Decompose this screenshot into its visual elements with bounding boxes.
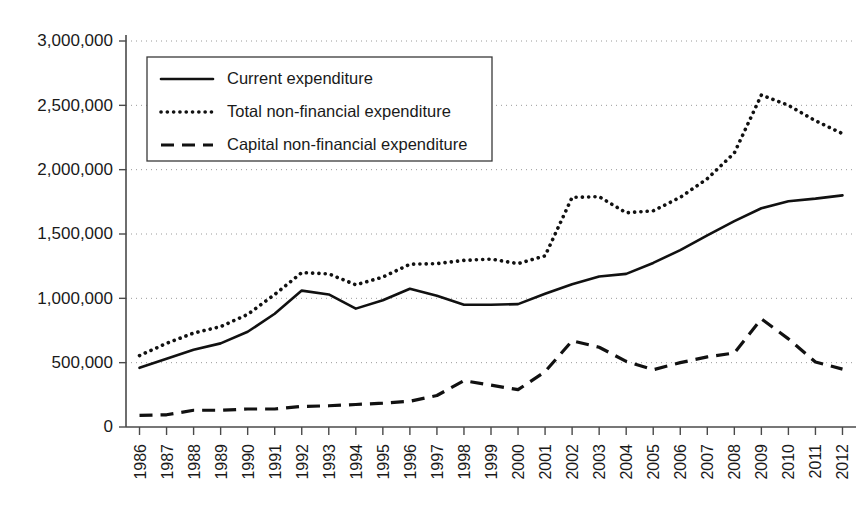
x-tick-label: 2011	[807, 444, 824, 479]
y-tick-label: 1,500,000	[37, 224, 113, 243]
x-tick-label: 2003	[591, 444, 608, 480]
x-tick-label: 1995	[375, 444, 392, 480]
chart-container: 0500,0001,000,0001,500,0002,000,0002,500…	[0, 0, 868, 506]
x-tick-label: 1990	[240, 444, 257, 480]
chart-legend: Current expenditureTotal non-financial e…	[147, 57, 492, 161]
y-axis-ticks	[119, 41, 126, 427]
x-tick-label: 2002	[564, 444, 581, 480]
x-tick-label: 2006	[672, 444, 689, 480]
x-tick-label: 1989	[213, 444, 230, 480]
x-tick-label: 1991	[267, 444, 284, 480]
x-tick-label: 2008	[726, 444, 743, 480]
x-tick-label: 1997	[429, 444, 446, 480]
x-tick-label: 1994	[348, 444, 365, 480]
x-tick-label: 2010	[780, 444, 797, 480]
y-axis-labels: 0500,0001,000,0001,500,0002,000,0002,500…	[37, 31, 113, 436]
x-tick-label: 1998	[456, 444, 473, 480]
y-tick-label: 2,000,000	[37, 160, 113, 179]
y-tick-label: 0	[104, 417, 113, 436]
legend-label: Total non-financial expenditure	[227, 102, 451, 120]
y-tick-label: 1,000,000	[37, 289, 113, 308]
x-tick-label: 1996	[402, 444, 419, 480]
x-tick-label: 2012	[834, 444, 851, 480]
x-tick-label: 2005	[645, 444, 662, 480]
y-tick-label: 3,000,000	[37, 31, 113, 50]
y-tick-label: 2,500,000	[37, 96, 113, 115]
legend-label: Capital non-financial expenditure	[227, 135, 467, 153]
x-tick-label: 2009	[753, 444, 770, 480]
x-tick-label: 1999	[483, 444, 500, 480]
x-axis-ticks	[140, 427, 843, 435]
x-tick-label: 1993	[321, 444, 338, 480]
legend-label: Current expenditure	[227, 69, 373, 87]
x-tick-label: 2004	[618, 444, 635, 480]
series-line-solid	[140, 195, 843, 367]
x-tick-label: 2007	[699, 444, 716, 480]
x-tick-label: 1986	[132, 444, 149, 480]
y-tick-label: 500,000	[52, 353, 113, 372]
x-tick-label: 1992	[294, 444, 311, 480]
x-tick-label: 2000	[510, 444, 527, 480]
x-axis-labels: 1986198719881989199019911992199319941995…	[132, 444, 852, 480]
x-tick-label: 2001	[537, 444, 554, 480]
x-tick-label: 1988	[186, 444, 203, 480]
x-tick-label: 1987	[159, 444, 176, 480]
expenditure-line-chart: 0500,0001,000,0001,500,0002,000,0002,500…	[0, 0, 868, 506]
